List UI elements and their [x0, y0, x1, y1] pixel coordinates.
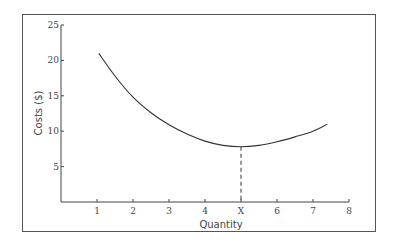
x-tick-label: 6 — [274, 206, 280, 216]
x-axis-title: Quantity — [199, 219, 242, 230]
y-axis: 510152025 — [48, 20, 64, 202]
x-tick-label: 7 — [310, 206, 316, 216]
y-axis-title: Costs ($) — [33, 91, 44, 136]
y-tick-label: 5 — [53, 162, 59, 172]
cost-curve — [99, 53, 328, 146]
x-axis: 1234X678 — [61, 199, 352, 216]
y-tick-label: 10 — [48, 126, 60, 136]
y-tick-label: 25 — [48, 20, 60, 30]
y-tick-label: 15 — [48, 91, 60, 101]
x-tick-label: 1 — [94, 206, 100, 216]
x-tick-label: 4 — [202, 206, 208, 216]
x-tick-label: 8 — [346, 206, 352, 216]
cost-chart: 510152025 1234X678 Costs ($) Quantity — [0, 0, 395, 247]
x-tick-label: 2 — [130, 206, 136, 216]
chart-frame — [23, 15, 376, 232]
x-tick-label: X — [238, 206, 245, 216]
y-tick-label: 20 — [48, 55, 60, 65]
x-tick-label: 3 — [166, 206, 172, 216]
